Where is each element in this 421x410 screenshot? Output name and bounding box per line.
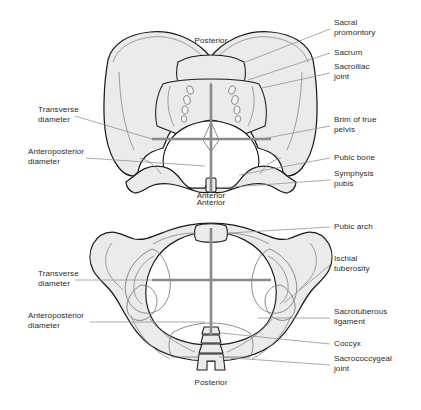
top-orientation-posterior: Posterior bbox=[180, 36, 242, 46]
label-sacral-promontory: Sacral promontory bbox=[334, 18, 420, 38]
label-symphysis-pubis: Symphysis pubis bbox=[334, 169, 420, 189]
label-pubic-bone: Pubic bone bbox=[334, 153, 420, 163]
label-anteroposterior-diameter-top: Anteroposterior diameter bbox=[28, 147, 124, 167]
figure-canvas: .bone { fill:#ebebeb; stroke:#1a1a1a; st… bbox=[0, 0, 421, 410]
label-transverse-diameter-top: Transverse diameter bbox=[38, 105, 118, 125]
label-sacrotuberous-ligament: Sacrotuberous ligament bbox=[334, 307, 421, 327]
leader-sacrococcygeal-joint bbox=[219, 357, 330, 365]
coccyx-segment-3 bbox=[199, 344, 223, 353]
bottom-orientation-anterior: Anterior bbox=[180, 198, 242, 208]
label-brim-of-true-pelvis: Brim of true pelvis bbox=[334, 115, 420, 135]
label-coccyx: Coccyx bbox=[334, 339, 420, 349]
label-ischial-tuberosity: Ischial tuberosity bbox=[334, 254, 420, 274]
sacral-foramen bbox=[181, 115, 187, 122]
label-anteroposterior-diameter-bottom: Anteroposterior diameter bbox=[28, 311, 124, 331]
bottom-orientation-posterior: Posterior bbox=[180, 378, 242, 388]
label-sacrum: Sacrum bbox=[334, 48, 420, 58]
sacral-promontory bbox=[177, 55, 246, 82]
label-transverse-diameter-bottom: Transverse diameter bbox=[38, 269, 118, 289]
label-pubic-arch: Pubic arch bbox=[334, 222, 420, 232]
sacral-foramen bbox=[235, 115, 241, 122]
bottom-pelvis-group bbox=[75, 223, 332, 370]
sacrococcygeal-joint bbox=[197, 354, 225, 370]
label-sacrococcygeal-joint: Sacrococcygeal joint bbox=[334, 354, 421, 374]
coccyx-segment-2 bbox=[201, 335, 221, 343]
label-sacroiliac-joint: Sacroiliac joint bbox=[334, 62, 420, 82]
